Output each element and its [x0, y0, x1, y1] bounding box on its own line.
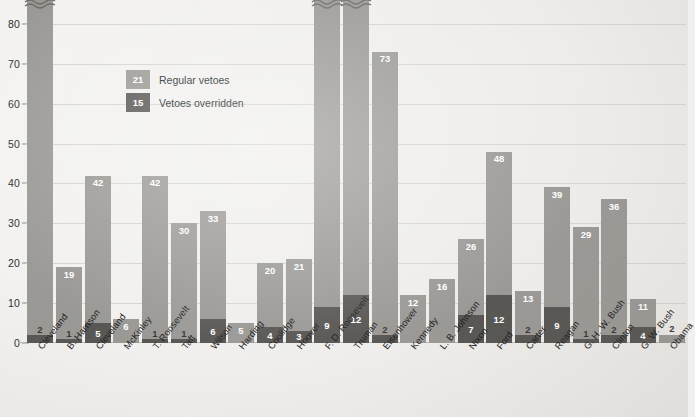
bar-value-label-total: 20	[257, 266, 283, 276]
plot-area: 2304119542614213063354203219372121802731…	[26, 4, 686, 343]
bar-value-label-total: 11	[630, 302, 656, 312]
bar-value-label-overridden: 12	[486, 315, 512, 325]
bar-series-container: 2304119542614213063354203219372121802731…	[26, 4, 686, 343]
legend: 21 Regular vetoes 15 Vetoes overridden	[126, 70, 296, 116]
x-axis-labels: ClevelandB. HarrisonClevelandMcKinleyT. …	[26, 345, 686, 415]
bar-value-label-total: 29	[573, 230, 599, 240]
bar-value-label-total: 42	[85, 178, 111, 188]
x-axis-label-slot: Cleveland	[27, 345, 53, 355]
bar-segment-regular-vetoes[interactable]	[343, 0, 369, 295]
bar-group[interactable]: 939	[544, 187, 570, 343]
bar-value-label-total: 21	[286, 262, 312, 272]
bar-value-label-total: 36	[601, 202, 627, 212]
y-axis-tick-label: 50	[8, 138, 20, 150]
x-axis-label-slot: G. W. Bush	[630, 345, 656, 355]
x-axis-label-slot: Nixon	[458, 345, 484, 355]
y-axis-tick-label: 10	[8, 297, 20, 309]
bar-group[interactable]: 12180	[343, 0, 369, 343]
legend-label-overridden: Vetoes overridden	[159, 97, 244, 109]
x-axis-label-slot: Ford	[486, 345, 512, 355]
x-axis-label-slot: G. H. W. Bush	[573, 345, 599, 355]
x-axis-label-slot: Obama	[659, 345, 685, 355]
bar-group[interactable]: 1248	[486, 152, 512, 343]
bar-value-label-total: 12	[400, 298, 426, 308]
legend-item-regular-vetoes: 21 Regular vetoes	[126, 70, 230, 89]
bar-value-label-total: 33	[200, 214, 226, 224]
bar-segment-regular-vetoes[interactable]	[544, 187, 570, 307]
bar-group[interactable]: 633	[200, 211, 226, 343]
x-axis-label-slot: McKinley	[113, 345, 139, 355]
axis-break-squiggle-icon	[340, 0, 372, 6]
bar-segment-regular-vetoes[interactable]	[486, 152, 512, 296]
bar-segment-regular-vetoes[interactable]	[372, 52, 398, 335]
y-axis-tick-label: 60	[8, 98, 20, 110]
axis-break-squiggle-icon	[24, 0, 56, 6]
y-axis: 01020304050607080	[0, 4, 22, 343]
y-axis-tick-label: 40	[8, 177, 20, 189]
x-axis-label-slot: B. Harrison	[56, 345, 82, 355]
x-axis-label-slot: F. D. Roosevelt	[314, 345, 340, 355]
y-axis-tick-label: 30	[8, 217, 20, 229]
y-axis-tick-label: 0	[14, 337, 20, 349]
x-axis-label-slot: Harding	[228, 345, 254, 355]
x-axis-label-slot: Carter	[515, 345, 541, 355]
x-axis-label-slot: Cleveland	[85, 345, 111, 355]
x-axis-label-slot: Wilson	[200, 345, 226, 355]
x-axis-label-slot: Eisenhower	[372, 345, 398, 355]
bar-segment-regular-vetoes[interactable]	[314, 0, 340, 307]
bar-segment-regular-vetoes[interactable]	[85, 176, 111, 324]
x-axis-label-slot: Kennedy	[400, 345, 426, 355]
x-axis-label-slot: Truman	[343, 345, 369, 355]
x-axis-label-slot: T. Roosevelt	[142, 345, 168, 355]
x-axis-label-slot: Clinton	[601, 345, 627, 355]
bar-value-label-total: 19	[56, 270, 82, 280]
y-axis-tick-label: 80	[8, 18, 20, 30]
bar-group[interactable]: 2304	[27, 0, 53, 343]
y-axis-tick-label: 20	[8, 257, 20, 269]
bar-group[interactable]: 273	[372, 52, 398, 343]
legend-swatch-overridden: 15	[126, 93, 150, 112]
bar-value-label-total: 16	[429, 282, 455, 292]
legend-item-vetoes-overridden: 15 Vetoes overridden	[126, 93, 244, 112]
bar-value-label-total: 48	[486, 154, 512, 164]
bar-value-label-total: 39	[544, 190, 570, 200]
bar-value-label-total: 30	[171, 226, 197, 236]
x-axis-label-slot: Reagan	[544, 345, 570, 355]
axis-break-squiggle-icon	[311, 0, 343, 6]
x-axis-label-slot: Taft	[171, 345, 197, 355]
bar-segment-regular-vetoes[interactable]	[27, 0, 53, 335]
bar-value-label-total: 26	[458, 242, 484, 252]
y-axis-tick-label: 70	[8, 58, 20, 70]
legend-swatch-regular: 21	[126, 70, 150, 89]
bar-value-label-total: 73	[372, 54, 398, 64]
x-axis-label-slot: Hoover	[286, 345, 312, 355]
bar-value-label-total: 42	[142, 178, 168, 188]
bar-segment-regular-vetoes[interactable]	[200, 211, 226, 319]
x-axis-label-slot: Coolidge	[257, 345, 283, 355]
bar-group[interactable]: 9372	[314, 0, 340, 343]
bar-value-label-total: 13	[515, 294, 541, 304]
legend-label-regular: Regular vetoes	[159, 74, 230, 86]
x-axis-label-slot: L. B. Johnson	[429, 345, 455, 355]
